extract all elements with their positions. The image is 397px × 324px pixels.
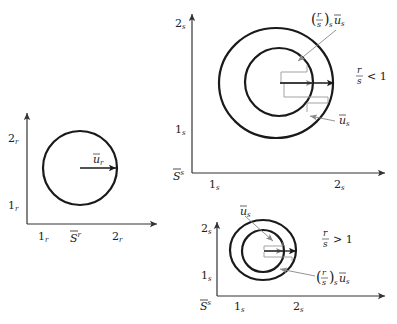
svg-text:s: s xyxy=(334,279,338,287)
condition-greater-than-one: r s > 1 xyxy=(322,228,353,249)
y-tick-1s: 1s xyxy=(201,269,212,283)
bracket-bottom xyxy=(284,84,328,112)
x-tick-1s: 1s xyxy=(234,300,245,314)
origin-label-ss: Ss xyxy=(200,299,212,313)
y-tick-1r: 1r xyxy=(8,199,19,213)
svg-text:> 1: > 1 xyxy=(333,233,353,246)
panel-bottom-right-frame-s: 2s 1s Ss 1s 2s u s ( r xyxy=(200,205,385,314)
panel-top-right-frame-s: 2s 1s Ss 1s 2s ( r s ) xyxy=(173,10,387,192)
svg-text:r: r xyxy=(323,228,328,238)
svg-text:s: s xyxy=(247,211,251,219)
vector-u-s-label: u s xyxy=(339,114,350,128)
svg-text:s: s xyxy=(323,239,328,249)
vector-u-r-label: ur xyxy=(93,153,104,167)
vector-u-s-label: u s xyxy=(240,205,251,219)
svg-text:r: r xyxy=(317,10,322,19)
inner-circle xyxy=(245,48,313,116)
svg-text:s: s xyxy=(346,278,350,286)
x-tick-1s: 1s xyxy=(209,178,220,192)
panel-left-frame-r: 2r 1r 1r Sr 2r ur xyxy=(8,113,157,245)
svg-text:r: r xyxy=(357,65,362,75)
x-tick-2s: 2s xyxy=(293,300,304,314)
svg-text:s: s xyxy=(317,20,321,29)
x-tick-1r: 1r xyxy=(38,230,49,244)
y-tick-2s: 2s xyxy=(175,17,186,31)
leader-u-s xyxy=(310,116,335,121)
origin-label-sr: Sr xyxy=(70,231,82,245)
bracket-top xyxy=(281,65,307,82)
y-tick-2r: 2r xyxy=(8,132,19,146)
scaled-vector-label: ( r s ) s u s xyxy=(316,268,350,287)
svg-text:s: s xyxy=(357,76,362,86)
svg-text:(: ( xyxy=(311,11,316,27)
svg-text:s: s xyxy=(329,21,333,29)
bracket-top xyxy=(264,242,283,250)
condition-less-than-one: r s < 1 xyxy=(356,65,387,86)
svg-text:s: s xyxy=(322,278,326,287)
svg-text:< 1: < 1 xyxy=(367,70,387,83)
svg-text:s: s xyxy=(346,120,350,128)
coordinate-scaling-diagram: 2r 1r 1r Sr 2r ur 2s 1s Ss xyxy=(0,0,397,324)
bracket-bottom xyxy=(264,252,292,261)
y-tick-2s: 2s xyxy=(201,222,212,236)
svg-text:r: r xyxy=(322,268,327,277)
svg-text:(: ( xyxy=(316,269,321,285)
scaled-vector-label: ( r s ) s u s xyxy=(311,10,345,29)
x-tick-2s: 2s xyxy=(334,178,345,192)
x-tick-2r: 2r xyxy=(112,230,123,244)
svg-text:s: s xyxy=(341,20,345,28)
origin-label-ss: Ss xyxy=(173,169,185,183)
y-tick-1s: 1s xyxy=(175,123,186,137)
